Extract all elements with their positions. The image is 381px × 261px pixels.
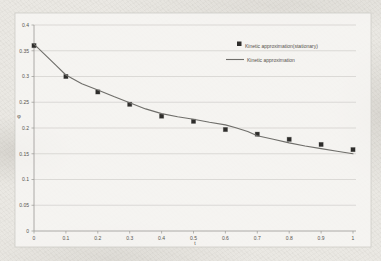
x-tick-label: 0.4 <box>158 235 165 241</box>
y-tick-label: 0.4 <box>22 22 29 28</box>
y-axis-title: φ <box>17 113 21 119</box>
series-marker <box>287 137 291 141</box>
y-tick-label: 0.15 <box>19 151 29 157</box>
x-tick-label: 0.3 <box>126 235 133 241</box>
x-tick-label: 0.8 <box>286 235 293 241</box>
y-tick-label: 0.35 <box>19 48 29 54</box>
x-tick-label: 0.7 <box>254 235 261 241</box>
series-marker <box>160 114 164 118</box>
x-tick-label: 0.9 <box>318 235 325 241</box>
x-tick-label: 0.6 <box>222 235 229 241</box>
legend-label-scatter: Kinetic approximation(stationary) <box>245 43 318 49</box>
x-tick-label: 0 <box>33 235 36 241</box>
y-tick-label: 0.1 <box>22 176 29 182</box>
legend-marker-square <box>237 42 242 47</box>
x-tick-label: 0.1 <box>62 235 69 241</box>
x-tick-label: 1 <box>352 235 355 241</box>
scanned-document-page: { "page": { "background_color": "#eae8e3… <box>0 0 381 261</box>
y-tick-label: 0.05 <box>19 202 29 208</box>
y-tick-label: 0.25 <box>19 99 29 105</box>
x-tick-label: 0.2 <box>94 235 101 241</box>
series-marker <box>223 127 227 131</box>
legend-label-line: Kinetic approximation <box>247 57 295 63</box>
y-tick-label: 0 <box>26 228 29 234</box>
y-tick-label: 0.2 <box>22 125 29 131</box>
chart: 00.050.10.150.20.250.30.350.400.10.20.30… <box>0 0 381 261</box>
y-tick-label: 0.3 <box>22 73 29 79</box>
series-marker <box>351 148 355 152</box>
series-marker <box>319 142 323 146</box>
